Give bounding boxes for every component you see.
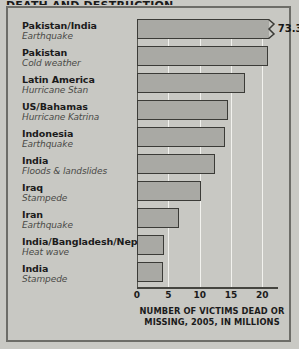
x-tick-label-20: 20 <box>256 290 269 300</box>
category-country-label: Pakistan <box>22 47 134 58</box>
x-axis-line <box>137 287 278 289</box>
category-cause-label: Hurricane Katrina <box>22 112 134 123</box>
category-label-row: IranEarthquake <box>22 208 134 235</box>
category-label-row: Pakistan/IndiaEarthquake <box>22 19 134 46</box>
bar-10 <box>137 262 163 282</box>
x-axis-title-line-2: MISSING, 2005, IN MILLIONS <box>137 317 287 328</box>
category-cause-label: Heat wave <box>22 247 134 258</box>
category-label-row: IndiaStampede <box>22 262 134 289</box>
category-cause-label: Earthquake <box>22 139 134 150</box>
category-label-row: India/Bangladesh/NepalHeat wave <box>22 235 134 262</box>
category-country-label: Pakistan/India <box>22 20 134 31</box>
x-axis-title-line-1: NUMBER OF VICTIMS DEAD OR <box>137 306 287 317</box>
x-tick-label-5: 5 <box>165 290 171 300</box>
chart-panel: Pakistan/IndiaEarthquakePakistanCold wea… <box>6 6 291 342</box>
category-cause-label: Earthquake <box>22 31 134 42</box>
x-tick-label-0: 0 <box>134 290 140 300</box>
category-country-label: India/Bangladesh/Nepal <box>22 236 134 247</box>
category-country-label: US/Bahamas <box>22 101 134 112</box>
category-label-row: Latin AmericaHurricane Stan <box>22 73 134 100</box>
category-country-label: Iran <box>22 209 134 220</box>
bar-4 <box>137 100 228 120</box>
x-tick-label-15: 15 <box>225 290 238 300</box>
chart-figure: DEATH AND DESTRUCTION Pakistan/IndiaEart… <box>0 0 299 349</box>
category-label-column: Pakistan/IndiaEarthquakePakistanCold wea… <box>22 19 134 289</box>
bar-2 <box>137 46 268 66</box>
category-cause-label: Hurricane Stan <box>22 85 134 96</box>
category-country-label: Latin America <box>22 74 134 85</box>
bar-7 <box>137 181 201 201</box>
bar-9 <box>137 235 164 255</box>
category-cause-label: Stampede <box>22 274 134 285</box>
chart-title-clipped: DEATH AND DESTRUCTION <box>6 0 293 5</box>
bar-6 <box>137 154 215 174</box>
category-country-label: Indonesia <box>22 128 134 139</box>
axis-break-zigzag-icon <box>267 19 277 39</box>
category-label-row: IraqStampede <box>22 181 134 208</box>
bar-5 <box>137 127 225 147</box>
category-cause-label: Cold weather <box>22 58 134 69</box>
category-label-row: IndonesiaEarthquake <box>22 127 134 154</box>
category-cause-label: Earthquake <box>22 220 134 231</box>
x-axis-title: NUMBER OF VICTIMS DEAD OR MISSING, 2005,… <box>137 306 287 327</box>
category-cause-label: Floods & landslides <box>22 166 134 177</box>
category-country-label: Iraq <box>22 182 134 193</box>
category-country-label: India <box>22 155 134 166</box>
plot-area: 73.3 <box>137 19 278 287</box>
category-label-row: US/BahamasHurricane Katrina <box>22 100 134 127</box>
bar-value-label: 73.3 <box>278 19 299 39</box>
bar-1 <box>137 19 269 39</box>
bar-3 <box>137 73 245 93</box>
category-label-row: PakistanCold weather <box>22 46 134 73</box>
bar-8 <box>137 208 179 228</box>
chart-plot-background: Pakistan/IndiaEarthquakePakistanCold wea… <box>8 8 289 340</box>
category-cause-label: Stampede <box>22 193 134 204</box>
x-tick-label-10: 10 <box>193 290 206 300</box>
category-label-row: IndiaFloods & landslides <box>22 154 134 181</box>
category-country-label: India <box>22 263 134 274</box>
